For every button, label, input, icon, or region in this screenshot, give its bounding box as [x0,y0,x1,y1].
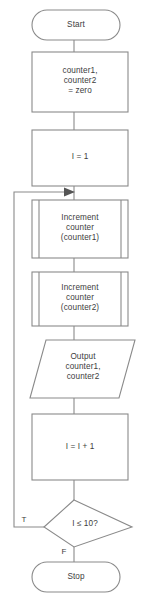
node-increment-counter1 [32,200,128,258]
node-stop [32,562,120,592]
branch-label-false: F [58,547,70,556]
node-increment-counter2 [32,272,128,326]
branch-label-true: T [18,515,30,524]
node-increment-index [32,414,128,480]
node-output-counters [30,340,135,398]
flowchart-diagram: Start counter1, counter2 = zero I = 1 In… [0,0,145,602]
node-init-counters [32,52,128,112]
loopback-arrowhead-icon [64,188,75,197]
node-condition [44,500,132,547]
flowchart-canvas [0,0,145,602]
node-init-index [32,130,128,186]
node-start [32,10,120,40]
